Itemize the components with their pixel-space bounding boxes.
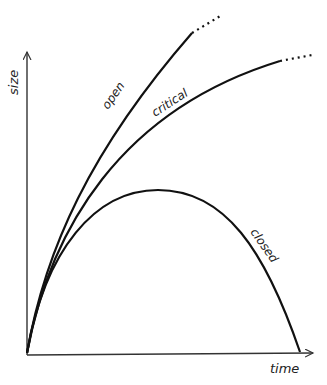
curve-open-label: open [99,79,128,112]
curve-closed [27,190,300,353]
y-axis-label: size [6,70,21,95]
curve-critical-extension [280,55,312,61]
x-axis-label: time [270,361,299,376]
curve-closed-label: closed [248,226,282,266]
curve-open [27,33,192,353]
x-axis [27,353,313,355]
growth-curves-diagram: size time open critical closed [0,0,327,385]
curve-open-extension [192,15,222,33]
